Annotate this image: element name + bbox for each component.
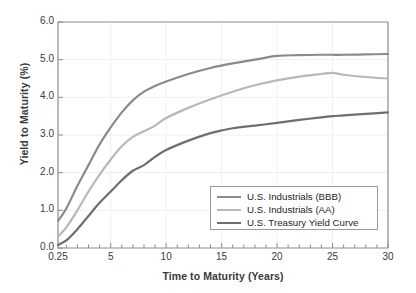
- legend-swatch-bbb-icon: [217, 196, 241, 198]
- legend-item: U.S. Industrials (BBB): [211, 190, 377, 203]
- legend-item: U.S. Industrials (AA): [211, 203, 377, 216]
- legend-label: U.S. Treasury Yield Curve: [247, 216, 358, 229]
- legend-label: U.S. Industrials (BBB): [247, 190, 341, 203]
- y-axis-title: Yield to Maturity (%): [18, 34, 30, 194]
- x-axis-tick-label: 20: [257, 251, 297, 262]
- x-axis-tick-label: 5: [91, 251, 131, 262]
- legend-label: U.S. Industrials (AA): [247, 203, 335, 216]
- x-axis-tick-label: 15: [202, 251, 242, 262]
- chart-legend: U.S. Industrials (BBB) U.S. Industrials …: [210, 186, 378, 230]
- x-axis-title: Time to Maturity (Years): [58, 270, 388, 282]
- plot-canvas: [0, 0, 416, 293]
- yield-curve-chart: 0.01.02.03.04.05.06.0 0.2551015202530 Yi…: [0, 0, 416, 293]
- legend-item: U.S. Treasury Yield Curve: [211, 216, 377, 229]
- x-axis-tick-label: 10: [146, 251, 186, 262]
- y-axis-tick-label: 1.0: [20, 203, 54, 214]
- legend-swatch-aa-icon: [217, 209, 241, 211]
- x-axis-tick-label: 25: [313, 251, 353, 262]
- x-axis-tick-label: 30: [368, 251, 408, 262]
- x-axis-tick-label: 0.25: [38, 251, 78, 262]
- y-axis-tick-label: 6.0: [20, 15, 54, 26]
- legend-swatch-treasury-icon: [217, 222, 241, 224]
